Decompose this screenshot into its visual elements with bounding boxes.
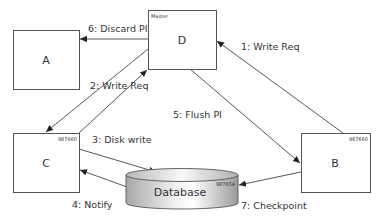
node-b[interactable]: 987660 B xyxy=(302,134,371,193)
edge-4-label: 4: Notify xyxy=(72,199,113,210)
database-value: 987654 xyxy=(216,181,235,187)
database-cylinder[interactable]: Database 987654 xyxy=(126,169,238,210)
edge-2-label: 2: Write Req xyxy=(90,80,148,91)
edge-4-line xyxy=(80,170,127,187)
database-label: Database xyxy=(154,186,207,199)
edge-6-label: 6: Discard PI xyxy=(88,23,148,34)
node-d-label: D xyxy=(178,34,186,47)
node-a[interactable]: A xyxy=(14,31,80,90)
edge-1-line xyxy=(217,41,343,133)
node-b-label: B xyxy=(331,157,339,170)
node-b-value: 987660 xyxy=(349,136,368,142)
edge-1-label: 1: Write Req xyxy=(241,41,299,52)
edge-5-label: 5: Flush PI xyxy=(173,109,222,120)
node-a-label: A xyxy=(42,54,50,67)
node-c[interactable]: 987660 C xyxy=(14,134,80,193)
edge-3-label: 3: Disk write xyxy=(92,134,152,145)
node-c-value: 987660 xyxy=(58,136,77,142)
node-c-label: C xyxy=(42,157,50,170)
edge-7-line xyxy=(239,172,301,185)
edge-3-line xyxy=(79,149,156,172)
node-d-role-label: Master xyxy=(151,13,169,19)
diagram: 1: Write Req 2: Write Req 3: Disk write … xyxy=(0,0,382,221)
edge-7-label: 7: Checkpoint xyxy=(241,200,307,211)
node-d-master[interactable]: Master D xyxy=(149,11,217,70)
